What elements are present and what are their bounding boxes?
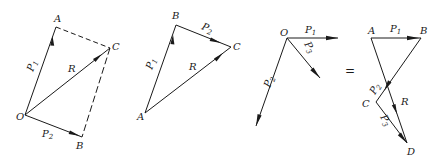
vector-diagrams-figure: A C O B P1 R P2 B C A P1 P2 R	[0, 0, 442, 157]
point-label-A: A	[53, 13, 61, 24]
point-label-C: C	[112, 41, 120, 52]
point-label-C: C	[233, 41, 241, 52]
vector-label-P3: P3	[376, 112, 394, 130]
point-label-A: A	[136, 111, 144, 122]
arrowhead-P3	[310, 68, 320, 79]
arrowhead-P2	[256, 114, 262, 126]
vector-label-R: R	[400, 96, 409, 107]
point-label-O: O	[16, 111, 24, 122]
arrowhead-R	[392, 104, 397, 114]
triangle-labels: B C A P1 P2 R	[136, 10, 241, 122]
parallelogram-diagram	[25, 27, 110, 137]
vector-P2	[376, 38, 421, 102]
arrowhead-P2	[69, 131, 80, 137]
arrowhead-R	[214, 53, 223, 62]
vector-label-P3: P3	[300, 39, 318, 57]
vector-label-R: R	[67, 63, 76, 74]
dashed-side-AC	[56, 27, 110, 48]
vector-label-P1: P1	[304, 24, 316, 37]
point-label-B: B	[419, 25, 427, 36]
vector-label-P1: P1	[24, 58, 40, 74]
vector-label-P1: P1	[143, 56, 159, 72]
point-label-B: B	[171, 10, 179, 21]
concurrent-forces-labels: O P1 P3 P2	[261, 24, 317, 90]
arrowhead-P2	[210, 38, 221, 44]
parallelogram-labels: A C O B P1 R P2	[16, 13, 120, 151]
point-label-C: C	[362, 98, 370, 109]
arrowhead-P1	[326, 36, 338, 40]
point-label-D: D	[406, 146, 415, 157]
equals-sign: =	[345, 64, 355, 78]
vector-label-P2: P2	[367, 80, 385, 98]
point-label-O: O	[280, 27, 288, 38]
arrowhead-P1	[407, 36, 419, 40]
vector-label-R: R	[188, 61, 197, 72]
vector-label-P2: P2	[41, 128, 54, 141]
vector-label-P1: P1	[389, 23, 401, 36]
triangle-diagram	[145, 25, 231, 113]
point-label-A: A	[367, 25, 375, 36]
vector-label-P2: P2	[261, 74, 278, 90]
point-label-B: B	[75, 140, 83, 151]
